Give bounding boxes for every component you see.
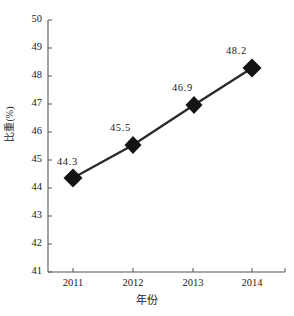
x-tick-label-2012: 2012 bbox=[113, 277, 153, 289]
data-point-label-2013: 46.9 bbox=[172, 82, 193, 94]
y-tick-label-42: 42 bbox=[16, 237, 42, 248]
data-point-marker-2012 bbox=[125, 136, 142, 154]
y-axis-ticks bbox=[48, 20, 52, 272]
y-tick-label-48: 48 bbox=[16, 69, 42, 80]
data-line-series-1 bbox=[73, 68, 252, 178]
data-point-marker-2011 bbox=[64, 169, 83, 188]
y-tick-label-47: 47 bbox=[16, 97, 42, 108]
y-tick-label-50: 50 bbox=[16, 13, 42, 24]
y-tick-label-43: 43 bbox=[16, 209, 42, 220]
x-axis-title: 年份 bbox=[0, 294, 294, 307]
x-tick-label-2013: 2013 bbox=[173, 277, 213, 289]
y-tick-label-41: 41 bbox=[16, 265, 42, 276]
chart-canvas bbox=[0, 0, 294, 316]
y-axis-title: 比重(%) bbox=[4, 88, 16, 160]
data-point-label-2014: 48.2 bbox=[226, 45, 247, 57]
x-tick-label-2011: 2011 bbox=[53, 277, 93, 289]
y-tick-label-49: 49 bbox=[16, 41, 42, 52]
y-tick-label-46: 46 bbox=[16, 125, 42, 136]
line-chart: 41 42 43 44 45 46 47 48 49 50 2011 2012 … bbox=[0, 0, 294, 316]
data-point-label-2012: 45.5 bbox=[110, 122, 131, 134]
data-point-marker-2014 bbox=[243, 59, 262, 78]
y-tick-label-45: 45 bbox=[16, 153, 42, 164]
data-point-label-2011: 44.3 bbox=[57, 156, 78, 168]
data-point-marker-2013 bbox=[186, 96, 203, 114]
x-axis-ticks bbox=[73, 268, 285, 272]
y-tick-label-44: 44 bbox=[16, 181, 42, 192]
x-tick-label-2014: 2014 bbox=[232, 277, 272, 289]
